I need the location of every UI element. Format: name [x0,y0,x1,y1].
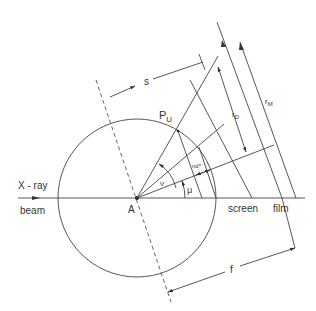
film-line-outer [240,42,296,198]
center-a-label: A [128,204,135,215]
screen-label: screen [228,203,258,214]
film-label: film [273,203,289,214]
beam-label: beam [20,205,45,216]
f-dimension-left [168,272,225,292]
point-pu [177,130,180,133]
beam-arrow-icon [32,196,40,200]
ray-nu [137,56,218,198]
s-label: s [144,76,149,87]
chord-line-2 [199,147,216,198]
s-dimension-line [153,62,203,79]
s-tick-right [199,54,205,70]
rM-label: rM [265,97,273,107]
ray-mid [137,124,224,198]
diffraction-geometry-diagram: X - ray beam A PU s f rD rM screen film … [0,0,316,311]
s-dimension-left [110,86,135,97]
pu-label: PU [159,109,172,124]
mu-label: μ [187,185,192,195]
film-line-inner [217,22,282,198]
screen-line [190,80,252,198]
f-label: f [230,264,233,275]
xray-label: X - ray [18,180,47,191]
rD-label: rD [232,110,240,120]
f-dimension-right [240,248,295,266]
mu-angle-arc [182,181,185,198]
nu-label: ν [160,179,164,188]
rM-arrow-upper-icon [239,42,244,50]
nd-label: nd* [192,163,202,169]
